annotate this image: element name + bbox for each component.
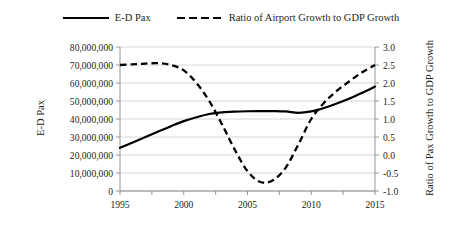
series-line-ratio: [120, 63, 375, 183]
plot-area: [0, 0, 462, 235]
series-group: [120, 63, 375, 183]
series-line-ed-pax: [120, 87, 375, 148]
chart-container: E-D Pax Ratio of Airport Growth to GDP G…: [0, 0, 462, 235]
